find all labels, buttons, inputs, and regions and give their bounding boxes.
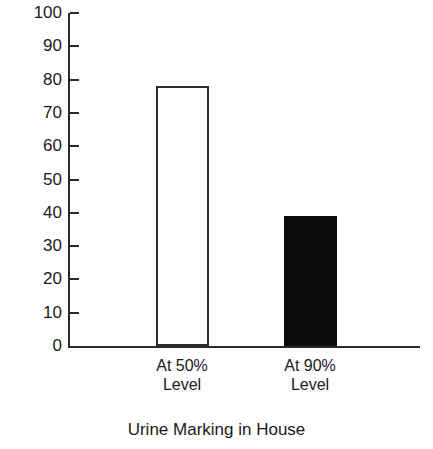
x-axis-line <box>68 346 420 348</box>
y-axis-tick-label: 70 <box>16 104 62 121</box>
y-axis-tick-label: 30 <box>16 237 62 254</box>
y-axis-tick-labels: 0102030405060708090100 <box>12 13 62 347</box>
y-axis-tick <box>70 278 79 280</box>
y-axis-tick <box>70 245 79 247</box>
bar-1 <box>156 86 209 346</box>
y-axis-tick <box>70 145 79 147</box>
y-axis-line <box>68 13 70 348</box>
plot-area <box>68 13 420 347</box>
y-axis-tick <box>70 12 79 14</box>
x-axis-title: Urine Marking in House <box>0 420 433 440</box>
y-axis-tick-label: 60 <box>16 137 62 154</box>
y-axis-tick <box>70 212 79 214</box>
bar-chart: Percent 0102030405060708090100 At 50%Lev… <box>0 0 433 449</box>
y-axis-tick-label: 40 <box>16 204 62 221</box>
y-axis-tick <box>70 45 79 47</box>
y-axis-tick-label: 20 <box>16 270 62 287</box>
y-axis-tick-label: 80 <box>16 71 62 88</box>
x-axis-category-label: At 90%Level <box>240 356 380 394</box>
y-axis-tick <box>70 312 79 314</box>
y-axis-tick-label: 90 <box>16 37 62 54</box>
y-axis-tick <box>70 179 79 181</box>
x-axis-category-label: At 50%Level <box>112 356 252 394</box>
bar-2 <box>284 216 337 346</box>
y-axis-tick-label: 0 <box>16 337 62 354</box>
y-axis-tick-label: 10 <box>16 304 62 321</box>
y-axis-tick-label: 100 <box>16 4 62 21</box>
y-axis-tick <box>70 112 79 114</box>
y-axis-tick <box>70 79 79 81</box>
y-axis-tick-label: 50 <box>16 171 62 188</box>
